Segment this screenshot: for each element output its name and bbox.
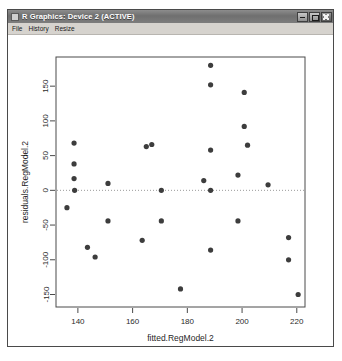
x-axis-tick-label: 180 xyxy=(181,317,195,326)
data-point xyxy=(286,257,291,262)
window-title-bar[interactable]: R Graphics: Device 2 (ACTIVE) xyxy=(8,10,333,23)
plot-frame xyxy=(56,57,305,307)
data-point xyxy=(105,218,110,223)
data-point xyxy=(235,172,240,177)
y-axis-tick-label: -100 xyxy=(42,251,51,268)
y-axis-tick-label: 0 xyxy=(42,188,51,193)
x-axis-tick-label: 160 xyxy=(126,317,140,326)
y-axis-tick-label: -150 xyxy=(42,286,51,303)
plot-canvas: 140160180200220150100500-50-100-150fitte… xyxy=(8,35,333,346)
data-point xyxy=(208,247,213,252)
data-point xyxy=(159,218,164,223)
data-point xyxy=(265,182,270,187)
data-point xyxy=(159,188,164,193)
data-point xyxy=(140,238,145,243)
data-point xyxy=(242,124,247,129)
data-point xyxy=(64,205,69,210)
data-point xyxy=(208,82,213,87)
data-point xyxy=(71,176,76,181)
x-axis-tick-label: 200 xyxy=(235,317,249,326)
data-point xyxy=(71,161,76,166)
data-point xyxy=(149,142,154,147)
data-point xyxy=(296,292,301,297)
x-axis-tick-label: 140 xyxy=(71,317,85,326)
menu-item-history[interactable]: History xyxy=(27,24,53,34)
y-axis-title: residuals.RegModel.2 xyxy=(20,141,30,223)
data-point xyxy=(242,90,247,95)
x-axis-title: fitted.RegModel.2 xyxy=(147,333,214,343)
y-axis-tick-label: 50 xyxy=(42,151,51,160)
data-point xyxy=(286,235,291,240)
r-graphics-window: R Graphics: Device 2 (ACTIVE) File Histo… xyxy=(7,9,334,347)
data-point xyxy=(85,245,90,250)
data-point xyxy=(144,144,149,149)
y-axis-tick-label: 150 xyxy=(42,79,51,93)
data-point xyxy=(208,188,213,193)
data-point xyxy=(93,254,98,259)
data-point xyxy=(245,143,250,148)
minimize-icon[interactable] xyxy=(297,12,308,22)
data-point xyxy=(71,141,76,146)
window-controls xyxy=(297,12,332,22)
data-point xyxy=(72,188,77,193)
residuals-vs-fitted-scatter-plot: 140160180200220150100500-50-100-150fitte… xyxy=(8,35,333,346)
data-point xyxy=(235,218,240,223)
x-axis-tick-label: 220 xyxy=(290,317,304,326)
menu-item-resize[interactable]: Resize xyxy=(54,24,80,34)
data-point xyxy=(208,63,213,68)
data-point xyxy=(105,181,110,186)
close-icon[interactable] xyxy=(321,12,332,22)
data-point xyxy=(178,286,183,291)
data-point xyxy=(208,147,213,152)
r-graphics-icon xyxy=(11,13,19,21)
menu-item-file[interactable]: File xyxy=(11,24,27,34)
y-axis-tick-label: 100 xyxy=(42,114,51,128)
data-point xyxy=(201,178,206,183)
menu-bar: File History Resize xyxy=(8,23,333,35)
window-title: R Graphics: Device 2 (ACTIVE) xyxy=(22,12,135,21)
maximize-icon[interactable] xyxy=(309,12,320,22)
y-axis-tick-label: -50 xyxy=(42,219,51,231)
